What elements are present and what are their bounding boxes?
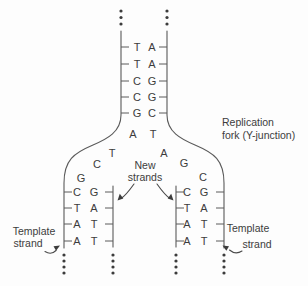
dot [119,9,122,12]
base-letter: A [129,128,137,140]
base-letter: T [91,235,98,247]
base-letter: G [148,75,157,87]
arrow-curve [45,251,56,254]
base-letter: C [183,186,191,198]
dot [165,9,168,12]
arrow-curve [157,184,170,199]
dot [111,259,114,262]
dot [111,265,114,268]
base-letter: T [150,128,157,140]
dot [62,271,65,274]
template-strand-right-line2: strand [242,238,271,250]
strand-continuation-dots-top-right [165,9,168,25]
left-branch-unpaired-bases: T C G [77,147,116,184]
base-letter: T [184,202,191,214]
template-strand-label-right: Template strand [223,222,272,253]
dot [62,253,65,256]
base-letter: G [133,107,142,119]
base-letter: A [183,218,191,230]
dot [165,16,168,19]
right-branch-paired-bases: C G T A A T A T [183,186,208,247]
base-letter: C [133,75,141,87]
arrow-curve [230,250,243,253]
base-letter: G [180,157,189,169]
base-letter: G [90,186,99,198]
strand-continuation-dots-top-left [119,9,122,25]
dot [222,259,225,262]
dot [222,265,225,268]
dot [165,22,168,25]
base-letter: C [148,107,156,119]
base-letter: A [73,235,81,247]
template-strand-right-line1: Template [227,222,270,234]
dna-replication-fork-diagram: T A T A C G C G G C A T T C G A G C C G … [0,0,308,286]
replication-fork-label-line1: Replication [222,116,274,128]
replication-fork-label-line2: fork (Y-junction) [222,129,295,141]
dot [222,271,225,274]
base-letter: T [134,41,141,53]
base-letter: C [93,158,101,170]
dot [62,259,65,262]
base-letter: T [201,235,208,247]
dot [174,271,177,274]
dot [119,16,122,19]
right-branch-unpaired-bases: A G C [160,147,207,183]
new-strands-label-line2: strands [128,171,162,183]
base-letter: T [134,58,141,70]
base-letter: A [90,202,98,214]
base-letter: G [200,186,209,198]
arrow-curve [121,184,134,199]
base-letter: T [74,202,81,214]
base-letter: T [91,218,98,230]
left-branch-ticks [64,192,113,241]
dot [222,253,225,256]
dot [62,265,65,268]
dot [174,253,177,256]
base-letter: T [201,218,208,230]
base-letter: C [133,91,141,103]
new-strands-label: New strands [128,159,162,183]
dot [174,265,177,268]
base-letter: T [109,147,116,159]
dot [111,253,114,256]
base-letter: C [73,186,81,198]
strand-continuation-dots-bottom [62,253,225,274]
template-strand-label-left: Template strand [13,225,60,254]
base-letter: A [183,235,191,247]
parent-duplex-ticks [121,47,167,113]
dot [174,259,177,262]
left-branch-paired-bases: C G T A A T A T [73,186,98,247]
new-strands-arrow-left [118,184,135,201]
base-letter: G [148,91,157,103]
base-letter: A [160,147,168,159]
parent-duplex-bases: T A T A C G C G G C A T [129,41,156,140]
arrowhead-icon [54,246,61,251]
template-strand-left-line1: Template [13,225,56,237]
base-letter: A [148,41,156,53]
base-letter: G [77,172,86,184]
base-letter: A [200,202,208,214]
replication-fork-label: Replication fork (Y-junction) [222,116,295,141]
base-letter: C [199,171,207,183]
template-strand-left-line2: strand [13,237,42,249]
diagram-canvas: T A T A C G C G G C A T T C G A G C C G … [0,0,308,286]
new-strands-arrow-right [157,184,174,201]
dot [111,271,114,274]
dot [119,22,122,25]
base-letter: A [148,58,156,70]
new-strands-label-line1: New [134,159,155,171]
base-letter: A [73,218,81,230]
